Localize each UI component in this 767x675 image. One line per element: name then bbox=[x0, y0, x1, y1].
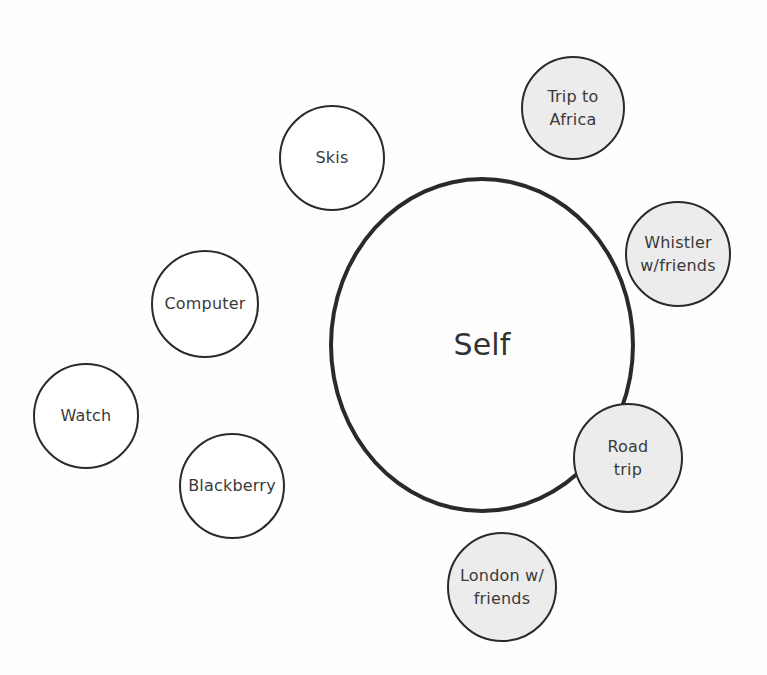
experience-circle-road-trip: Road trip bbox=[573, 403, 683, 513]
thing-circle-computer: Computer bbox=[151, 250, 259, 358]
self-label: Self bbox=[449, 323, 514, 367]
experience-circle-whistler: Whistler w/friends bbox=[625, 201, 731, 307]
experience-label: Road trip bbox=[604, 435, 653, 481]
experience-circle-trip-to-africa: Trip to Africa bbox=[521, 56, 625, 160]
thing-circle-watch: Watch bbox=[33, 363, 139, 469]
diagram-canvas: Self Skis Computer Watch Blackberry Trip… bbox=[0, 0, 767, 675]
thing-circle-skis: Skis bbox=[279, 105, 385, 211]
thing-label: Skis bbox=[311, 146, 352, 169]
experience-label: Trip to Africa bbox=[543, 85, 602, 131]
experience-label: London w/ friends bbox=[456, 564, 548, 610]
thing-label: Computer bbox=[160, 292, 249, 315]
thing-circle-blackberry: Blackberry bbox=[179, 433, 285, 539]
thing-label: Watch bbox=[57, 404, 116, 427]
experience-label: Whistler w/friends bbox=[636, 231, 719, 277]
thing-label: Blackberry bbox=[184, 474, 280, 497]
experience-circle-london: London w/ friends bbox=[447, 532, 557, 642]
